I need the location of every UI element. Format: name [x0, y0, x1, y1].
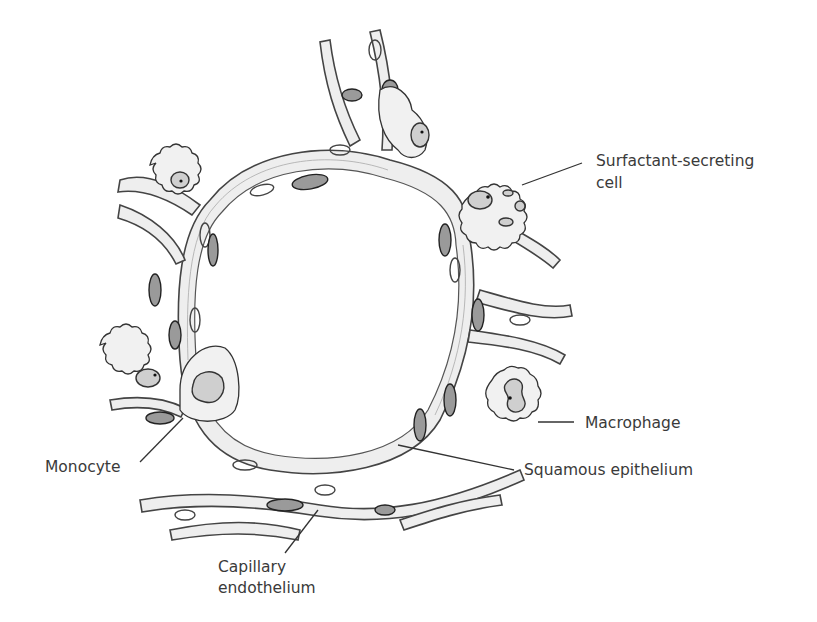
label-surfactant-line1: Surfactant-secreting: [596, 152, 754, 170]
label-capillary-line1: Capillary: [218, 558, 286, 576]
label-monocyte: Monocyte: [45, 458, 120, 476]
label-capillary-line2: endothelium: [218, 579, 316, 597]
macrophage: [486, 366, 541, 421]
surfactant-secreting-cell-lower-left: [100, 324, 160, 387]
label-surfactant-line2: cell: [596, 174, 623, 192]
label-macrophage: Macrophage: [585, 414, 680, 432]
label-squamous-epithelium: Squamous epithelium: [524, 461, 693, 479]
leader-squamous: [398, 445, 514, 470]
leader-surfactant: [522, 163, 582, 185]
surfactant-secreting-cell: [459, 184, 527, 250]
alveolus-diagram: Surfactant-secreting cell Macrophage Squ…: [0, 0, 817, 622]
alveolar-wall: [178, 150, 473, 473]
